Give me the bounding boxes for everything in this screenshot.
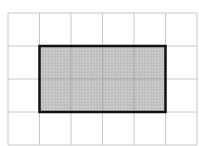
grid-diagram: [0, 0, 199, 146]
